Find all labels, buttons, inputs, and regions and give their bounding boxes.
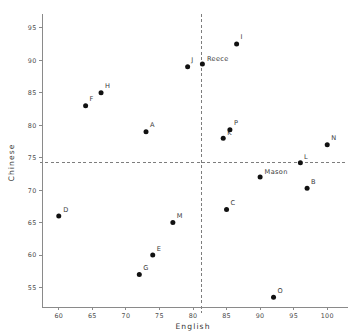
y-tick-label: 55 bbox=[28, 284, 37, 292]
figure-background bbox=[0, 0, 352, 335]
data-point-label: A bbox=[150, 121, 155, 129]
y-tick-label: 65 bbox=[28, 219, 37, 227]
data-point-label: H bbox=[105, 82, 110, 90]
data-point-label: C bbox=[231, 199, 236, 207]
data-point-marker bbox=[99, 90, 104, 95]
x-tick-label: 60 bbox=[54, 312, 63, 320]
scatter-plot-figure: 556065707580859095 6065707580859095100 E… bbox=[0, 0, 352, 335]
y-tick-label: 75 bbox=[28, 154, 37, 162]
data-point-marker bbox=[83, 103, 88, 108]
data-point-label: I bbox=[241, 33, 243, 41]
y-tick-label: 85 bbox=[28, 89, 37, 97]
data-point-label: B bbox=[311, 178, 316, 186]
y-tick-label: 60 bbox=[28, 251, 37, 259]
y-tick-label: 90 bbox=[28, 57, 37, 65]
data-point-marker bbox=[221, 136, 226, 141]
x-tick-label: 65 bbox=[88, 312, 97, 320]
data-point-marker bbox=[305, 186, 310, 191]
data-point-marker bbox=[137, 272, 142, 277]
x-tick-label: 70 bbox=[122, 312, 131, 320]
data-point-marker bbox=[144, 129, 149, 134]
data-point-label: D bbox=[63, 206, 68, 214]
x-tick-label: 80 bbox=[189, 312, 198, 320]
data-point-marker bbox=[234, 41, 239, 46]
data-point-marker bbox=[200, 62, 205, 67]
x-axis-title: English bbox=[175, 322, 210, 331]
x-tick-label: 100 bbox=[321, 312, 334, 320]
x-tick-label: 85 bbox=[222, 312, 231, 320]
data-point-marker bbox=[185, 64, 190, 69]
data-point-label: O bbox=[278, 287, 284, 295]
plot-canvas: 556065707580859095 6065707580859095100 E… bbox=[0, 0, 352, 335]
data-point-label: M bbox=[177, 212, 183, 220]
data-point-marker bbox=[271, 295, 276, 300]
x-tick-label: 75 bbox=[155, 312, 164, 320]
data-point-label: G bbox=[143, 264, 148, 272]
data-point-label: F bbox=[90, 95, 94, 103]
y-axis-title: Chinese bbox=[7, 143, 16, 181]
y-tick-label: 70 bbox=[28, 187, 37, 195]
data-point-label: Reece bbox=[207, 55, 229, 63]
y-tick-label: 95 bbox=[28, 24, 37, 32]
data-point-marker bbox=[298, 160, 303, 165]
data-point-label: E bbox=[157, 245, 162, 253]
data-point-label: J bbox=[190, 56, 193, 64]
data-point-marker bbox=[150, 253, 155, 258]
data-point-label: P bbox=[234, 119, 238, 127]
data-point-marker bbox=[258, 175, 263, 180]
data-point-label: N bbox=[331, 134, 336, 142]
data-point-label: Mason bbox=[265, 168, 288, 176]
data-point-marker bbox=[224, 207, 229, 212]
data-point-marker bbox=[56, 214, 61, 219]
data-point-marker bbox=[170, 220, 175, 225]
data-point-label: L bbox=[304, 153, 308, 161]
data-point-marker bbox=[227, 127, 232, 132]
data-point-marker bbox=[325, 142, 330, 147]
y-tick-label: 80 bbox=[28, 122, 37, 130]
x-tick-label: 95 bbox=[289, 312, 298, 320]
x-tick-label: 90 bbox=[256, 312, 265, 320]
